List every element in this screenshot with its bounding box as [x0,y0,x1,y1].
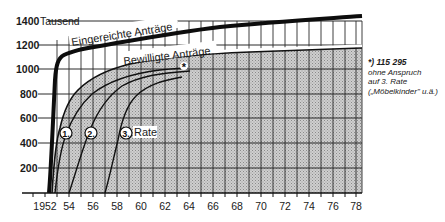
y-unit-label: Tausend [40,15,80,27]
y-tick-200: 200 [20,162,38,174]
x-tick-78: 78 [350,200,362,212]
y-tick-1000: 1000 [16,63,40,75]
x-tick-66: 66 [207,200,219,212]
x-tick-70: 70 [255,200,267,212]
x-tick-60: 60 [135,200,147,212]
x-tick-62: 62 [159,200,171,212]
x-tick-labels: 1952 54 56 58 60 62 64 66 68 70 72 74 76… [33,200,362,212]
footnote-line-3: auf 3. Rate [368,77,438,87]
footnote-line-4: („Möbelkinder" u.ä.) [368,87,438,97]
x-tick-76: 76 [327,200,339,212]
x-tick-68: 68 [231,200,243,212]
rate-3-label: 3. [122,129,130,139]
rate-2-marker: 2. [85,127,97,139]
rate-3-marker: 3. Rate [120,126,157,139]
x-tick-56: 56 [87,200,99,212]
chart: 1400 Tausend 1200 1000 800 600 400 200 1… [0,0,445,222]
footnote-line-2: ohne Anspruch [368,68,438,78]
y-tick-600: 600 [20,112,38,124]
rate-2-label: 2. [87,129,95,139]
x-tick-1952: 1952 [33,200,57,212]
y-tick-800: 800 [20,88,38,100]
x-tick-54: 54 [63,200,75,212]
y-tick-400: 400 [20,137,38,149]
rate-1-label: 1. [62,129,70,139]
shaded-area-bewilligt [52,48,362,193]
x-tick-72: 72 [279,200,291,212]
x-tick-58: 58 [111,200,123,212]
rate-1-marker: 1. [60,127,72,139]
footnote-line-1: *) 115 295 [368,58,438,68]
x-tick-74: 74 [303,200,315,212]
y-tick-1400: 1400 [16,15,40,27]
y-tick-1200: 1200 [16,39,40,51]
footnote: *) 115 295 ohne Anspruch auf 3. Rate („M… [368,58,438,96]
x-tick-64: 64 [183,200,195,212]
rate-word-label: Rate [134,126,157,138]
star-marker: * [182,61,187,73]
